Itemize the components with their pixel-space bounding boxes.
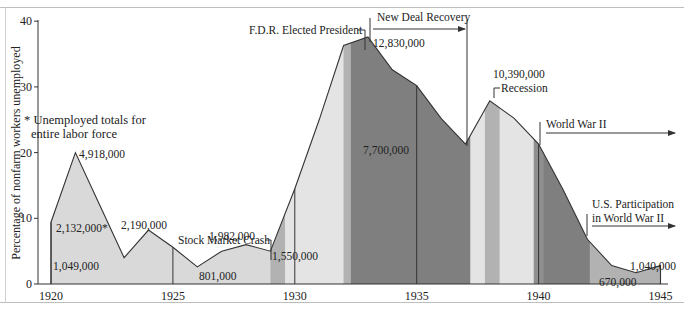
shaded-band [470,0,485,284]
x-tick-label: 1930 [283,289,307,303]
data-label: 12,830,000 [373,37,425,50]
annotation-new-deal-recovery: New Deal Recovery [377,11,470,24]
shaded-band [543,0,590,284]
footnote-line-1: * Unemployed totals for [24,113,147,127]
annotation-us-participation-line-1: U.S. Participation [592,198,674,211]
shaded-band [500,0,535,284]
data-label: 7,700,000 [363,144,409,157]
shaded-band [344,0,352,284]
shaded-band [590,0,661,284]
data-label: 1,049,000 [53,260,99,273]
annotation-fdr-elected: F.D.R. Elected President [249,24,363,36]
annotation-us-participation-line-2: in World War II [592,212,664,224]
data-label: 4,918,000 [79,148,125,161]
data-label: 2,132,000* [56,222,108,235]
annotation-recession: Recession [501,82,548,94]
data-label: 1,550,000 [272,250,318,263]
y-axis-label: Percentage of nonfarm workers unemployed [9,46,23,259]
shaded-period-bands [51,0,661,284]
x-tick-label: 1935 [405,289,429,303]
x-tick-label: 1920 [39,289,63,303]
x-tick-label: 1940 [527,289,551,303]
annotation-world-war-ii: World War II [546,118,607,130]
data-label: 2,190,000 [121,219,167,232]
data-label: 10,390,000 [493,68,545,81]
shaded-band [285,0,344,284]
unemployment-chart: 010203040192019251930193519401945 2,132,… [0,0,684,311]
x-tick-label: 1925 [161,289,185,303]
x-tick-label: 1945 [649,289,673,303]
shaded-band [270,0,285,284]
shaded-band [485,0,500,284]
y-tick-label: 40 [20,14,32,28]
annotation-stock-market-crash: Stock Market Crash [178,234,270,246]
y-tick-label: 0 [26,277,32,291]
data-label: 670,000 [599,276,637,289]
footnote-line-2: entire labor force [31,127,118,141]
data-label: 1,040,000 [630,260,676,273]
data-label: 801,000 [199,270,237,283]
